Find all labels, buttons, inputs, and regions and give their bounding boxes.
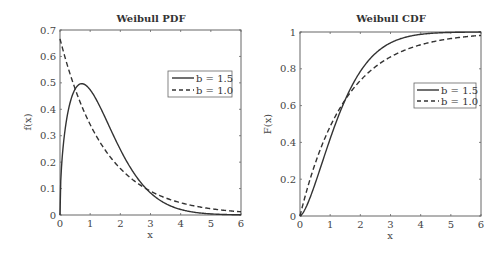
cdf-plot: Weibull CDF 012345600.20.40.60.81 x F(x)… [262,13,484,241]
y-tick-label: 0.7 [40,25,56,36]
cdf-line-b1.5 [300,32,481,216]
x-tick-label: 1 [327,219,333,230]
y-tick-label: 0.8 [280,63,296,74]
x-tick-label: 3 [387,219,393,230]
y-tick-label: 0.1 [40,183,56,194]
x-tick-label: 5 [208,218,214,229]
x-tick-label: 0 [57,218,63,229]
pdf-ticks: 012345600.10.20.30.40.50.60.7 [40,25,244,230]
pdf-legend-item-2: b = 1.0 [196,85,233,96]
y-tick-label: 0.2 [40,157,56,168]
cdf-ylabel: F(x) [262,114,273,134]
x-tick-label: 4 [417,219,423,230]
cdf-title: Weibull CDF [355,13,426,24]
cdf-legend-item-1: b = 1.5 [441,85,478,96]
pdf-legend: b = 1.5 b = 1.0 [168,71,233,97]
y-tick-label: 0.6 [280,100,296,111]
y-tick-label: 0 [50,210,56,221]
y-tick-label: 0.4 [280,137,296,148]
figure: Weibull PDF 012345600.10.20.30.40.50.60.… [0,0,502,253]
pdf-xlabel: x [147,229,153,240]
pdf-line-b1.0 [60,39,241,212]
cdf-ticks: 012345600.20.40.60.81 [280,27,484,231]
x-tick-label: 4 [177,218,183,229]
cdf-xlabel: x [387,230,393,241]
pdf-line-b1.5 [60,84,241,215]
x-tick-label: 5 [448,219,454,230]
pdf-plot: Weibull PDF 012345600.10.20.30.40.50.60.… [22,13,244,240]
cdf-line-b1.0 [300,35,481,216]
x-tick-label: 2 [117,218,123,229]
x-tick-label: 1 [87,218,93,229]
x-tick-label: 6 [478,219,484,230]
x-tick-label: 6 [238,218,244,229]
pdf-legend-item-1: b = 1.5 [196,73,233,84]
y-tick-label: 0.6 [40,51,56,62]
pdf-axes-box [60,30,241,215]
x-tick-label: 2 [357,219,363,230]
x-tick-label: 3 [147,218,153,229]
cdf-axes-box [300,32,481,216]
y-tick-label: 0.2 [280,174,296,185]
y-tick-label: 0.5 [40,77,56,88]
x-tick-label: 0 [297,219,303,230]
y-tick-label: 0 [290,211,296,222]
y-tick-label: 0.3 [40,130,56,141]
cdf-legend-item-2: b = 1.0 [441,96,478,107]
y-tick-label: 0.4 [40,104,56,115]
y-tick-label: 1 [290,27,296,38]
cdf-legend: b = 1.5 b = 1.0 [414,83,478,108]
pdf-ylabel: f(x) [22,113,33,130]
pdf-title: Weibull PDF [115,13,185,24]
